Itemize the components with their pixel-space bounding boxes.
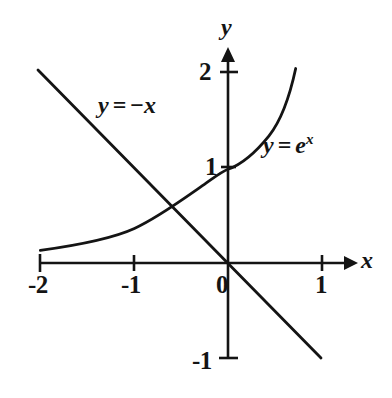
- y-tick-label-2: 2: [199, 59, 211, 84]
- line-negative-x: [38, 70, 321, 358]
- exp-label-eq: =: [278, 132, 292, 158]
- x-tick-label--1: -1: [121, 272, 141, 297]
- graph-figure: -2 -1 0 1 2 1 -1 x y y=−x y=ex: [0, 0, 392, 398]
- x-axis: [40, 254, 358, 272]
- y-tick-label--1: -1: [192, 348, 212, 373]
- exp-label-exponent: x: [306, 131, 314, 147]
- exponential-curve: [40, 69, 295, 251]
- x-tick-label-1: 1: [315, 272, 327, 297]
- line-label-rhs: x: [144, 92, 156, 118]
- y-tick-label-1: 1: [205, 154, 217, 179]
- line-label-eq: =: [113, 92, 127, 118]
- exp-label-base: e: [295, 132, 306, 158]
- exp-label-lhs: y: [263, 132, 274, 158]
- line-label-minus: −: [130, 92, 144, 118]
- exponential-equation-label: y=ex: [263, 132, 314, 157]
- line-equation-label: y=−x: [98, 93, 156, 117]
- x-tick-label--2: -2: [28, 272, 48, 297]
- y-axis: [219, 47, 238, 358]
- plot-canvas: [0, 0, 392, 398]
- x-axis-name: x: [361, 248, 373, 272]
- y-axis-name: y: [221, 15, 232, 39]
- origin-label: 0: [216, 272, 228, 297]
- line-label-lhs: y: [98, 92, 109, 118]
